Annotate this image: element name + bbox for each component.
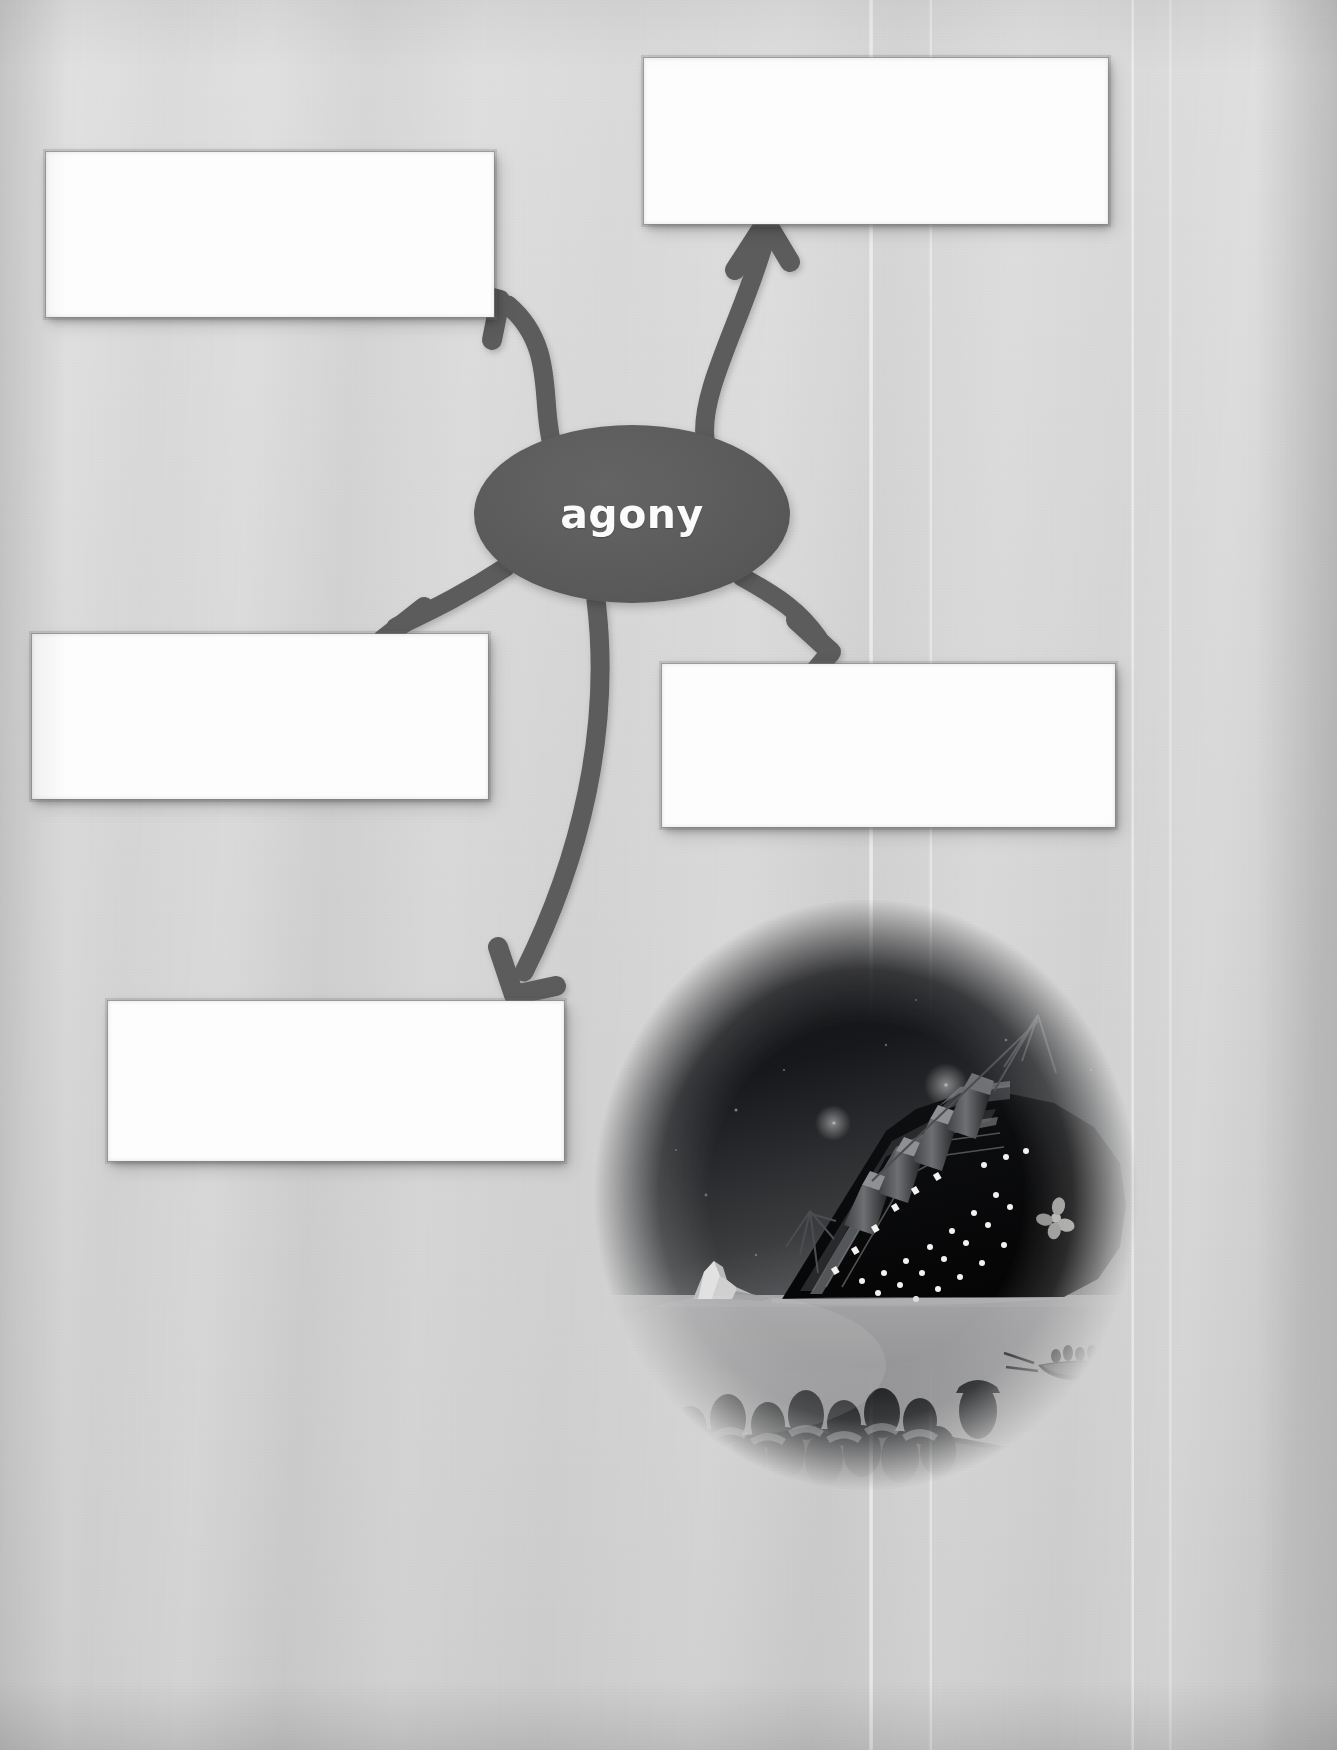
center-concept-node[interactable]: agony: [474, 425, 790, 603]
box-mid-left[interactable]: [32, 634, 488, 799]
center-word-label: agony: [560, 490, 704, 538]
box-bottom-left[interactable]: [108, 1001, 564, 1161]
box-top-right[interactable]: [644, 58, 1108, 224]
sea-light-pool: [586, 1295, 886, 1435]
arrow-to-top-right: [705, 222, 790, 438]
star-glow: [815, 1105, 851, 1141]
titanic-sinking-illustration: [586, 895, 1146, 1495]
arrow-to-bottom-left: [498, 600, 600, 995]
box-top-left[interactable]: [46, 152, 494, 317]
box-mid-right[interactable]: [662, 664, 1115, 827]
worksheet-page: agony: [0, 0, 1337, 1750]
